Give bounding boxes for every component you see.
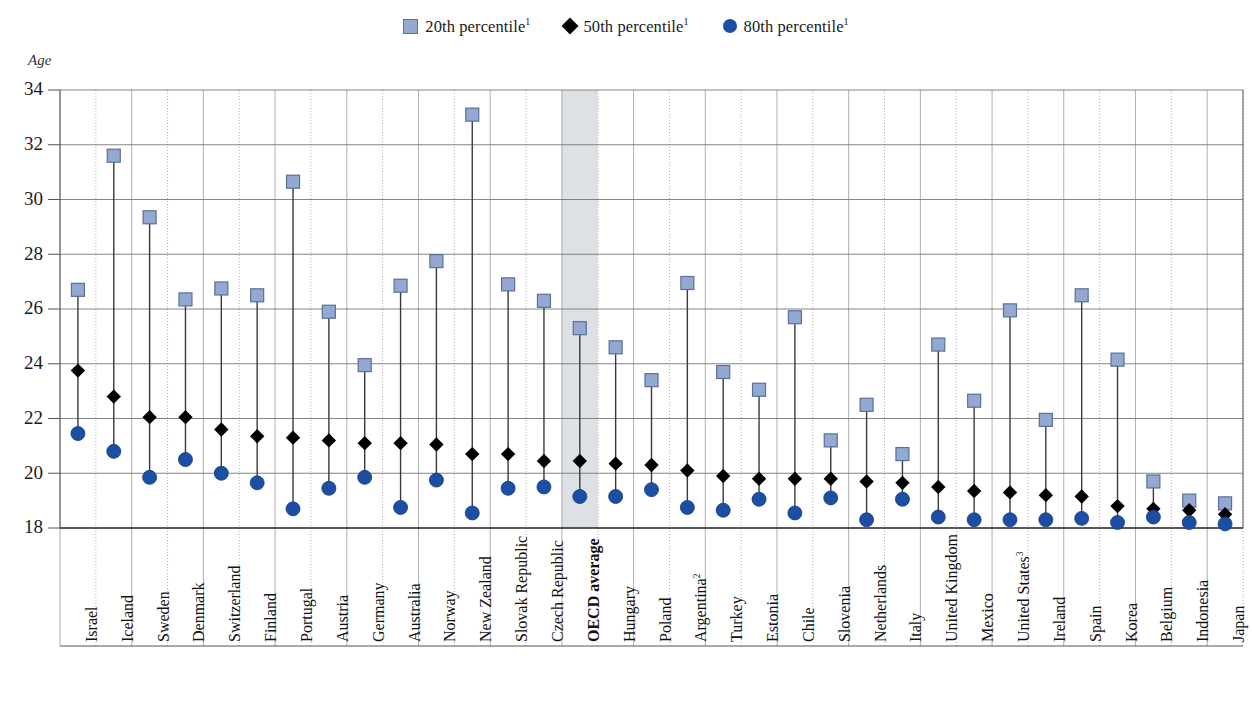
marker-p50[interactable] — [178, 410, 192, 424]
marker-p20[interactable] — [322, 305, 335, 318]
y-tick-label: 32 — [24, 133, 43, 154]
marker-p80[interactable] — [967, 513, 981, 527]
marker-p50[interactable] — [393, 436, 407, 450]
marker-p80[interactable] — [1003, 513, 1017, 527]
marker-p80[interactable] — [537, 480, 551, 494]
marker-p80[interactable] — [1039, 513, 1053, 527]
marker-p50[interactable] — [680, 463, 694, 477]
marker-p20[interactable] — [430, 255, 443, 268]
marker-p50[interactable] — [931, 480, 945, 494]
marker-p50[interactable] — [895, 476, 909, 490]
marker-p20[interactable] — [753, 383, 766, 396]
marker-p20[interactable] — [1075, 289, 1088, 302]
marker-p80[interactable] — [573, 490, 587, 504]
marker-p20[interactable] — [645, 374, 658, 387]
marker-p50[interactable] — [1003, 485, 1017, 499]
marker-p80[interactable] — [322, 481, 336, 495]
marker-p80[interactable] — [609, 490, 623, 504]
marker-p20[interactable] — [860, 398, 873, 411]
marker-p20[interactable] — [1111, 353, 1124, 366]
marker-p20[interactable] — [466, 108, 479, 121]
marker-p80[interactable] — [931, 510, 945, 524]
chart-svg: 182022242628303234 — [0, 0, 1252, 716]
marker-p50[interactable] — [286, 430, 300, 444]
plot-area: 182022242628303234 IsraelIcelandSwedenDe… — [0, 0, 1252, 716]
marker-p80[interactable] — [1146, 510, 1160, 524]
marker-p50[interactable] — [250, 429, 264, 443]
marker-p80[interactable] — [465, 506, 479, 520]
marker-p50[interactable] — [859, 474, 873, 488]
marker-p50[interactable] — [358, 436, 372, 450]
marker-p80[interactable] — [214, 466, 228, 480]
marker-p50[interactable] — [322, 433, 336, 447]
marker-p80[interactable] — [250, 476, 264, 490]
marker-p80[interactable] — [71, 427, 85, 441]
y-tick-label: 30 — [24, 188, 43, 209]
marker-p50[interactable] — [1039, 488, 1053, 502]
marker-p50[interactable] — [142, 410, 156, 424]
marker-p20[interactable] — [717, 365, 730, 378]
marker-p50[interactable] — [537, 454, 551, 468]
marker-p50[interactable] — [429, 437, 443, 451]
marker-p80[interactable] — [1111, 516, 1125, 530]
marker-p20[interactable] — [71, 283, 84, 296]
marker-p80[interactable] — [1182, 516, 1196, 530]
y-tick-label: 34 — [24, 78, 44, 99]
marker-p80[interactable] — [716, 503, 730, 517]
marker-p80[interactable] — [680, 500, 694, 514]
y-tick-label: 18 — [24, 516, 43, 537]
marker-p80[interactable] — [429, 473, 443, 487]
marker-p50[interactable] — [644, 458, 658, 472]
marker-p50[interactable] — [501, 447, 515, 461]
marker-p20[interactable] — [537, 294, 550, 307]
marker-p50[interactable] — [716, 469, 730, 483]
marker-p20[interactable] — [968, 394, 981, 407]
marker-p80[interactable] — [860, 513, 874, 527]
marker-p80[interactable] — [824, 491, 838, 505]
marker-p80[interactable] — [645, 483, 659, 497]
marker-p80[interactable] — [788, 506, 802, 520]
marker-p50[interactable] — [967, 484, 981, 498]
marker-p20[interactable] — [824, 434, 837, 447]
marker-p50[interactable] — [71, 363, 85, 377]
marker-p20[interactable] — [107, 149, 120, 162]
marker-p50[interactable] — [608, 456, 622, 470]
marker-p80[interactable] — [178, 453, 192, 467]
marker-p20[interactable] — [251, 289, 264, 302]
marker-p80[interactable] — [107, 444, 121, 458]
marker-p20[interactable] — [287, 175, 300, 188]
marker-p80[interactable] — [501, 481, 515, 495]
marker-p20[interactable] — [681, 276, 694, 289]
y-tick-label: 28 — [24, 243, 43, 264]
marker-p50[interactable] — [107, 389, 121, 403]
marker-p20[interactable] — [573, 322, 586, 335]
marker-p80[interactable] — [752, 492, 766, 506]
marker-p80[interactable] — [1218, 517, 1232, 531]
marker-p20[interactable] — [215, 282, 228, 295]
y-tick-label: 20 — [24, 462, 43, 483]
y-tick-label: 24 — [24, 352, 44, 373]
marker-p20[interactable] — [896, 448, 909, 461]
marker-p20[interactable] — [358, 359, 371, 372]
marker-p20[interactable] — [179, 293, 192, 306]
marker-p20[interactable] — [143, 211, 156, 224]
marker-p20[interactable] — [502, 278, 515, 291]
marker-p80[interactable] — [358, 470, 372, 484]
marker-p20[interactable] — [1003, 304, 1016, 317]
marker-p80[interactable] — [394, 500, 408, 514]
y-tick-label: 26 — [24, 297, 43, 318]
marker-p20[interactable] — [394, 279, 407, 292]
marker-p50[interactable] — [1110, 499, 1124, 513]
marker-p50[interactable] — [465, 447, 479, 461]
marker-p20[interactable] — [609, 341, 622, 354]
marker-p50[interactable] — [1074, 489, 1088, 503]
marker-p20[interactable] — [788, 311, 801, 324]
marker-p20[interactable] — [932, 338, 945, 351]
marker-p80[interactable] — [1075, 511, 1089, 525]
marker-p50[interactable] — [214, 422, 228, 436]
marker-p80[interactable] — [286, 502, 300, 516]
marker-p80[interactable] — [895, 492, 909, 506]
marker-p20[interactable] — [1039, 413, 1052, 426]
marker-p20[interactable] — [1147, 475, 1160, 488]
marker-p80[interactable] — [143, 470, 157, 484]
